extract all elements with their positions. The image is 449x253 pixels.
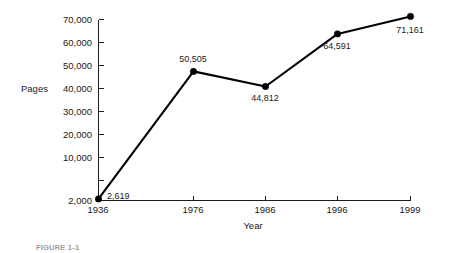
x-tick-label-1936: 1936 [87, 204, 108, 215]
data-point-1999 [407, 13, 413, 19]
x-tick-label-1999: 1999 [399, 204, 420, 215]
series-line-pages [99, 16, 411, 199]
y-tick-label-70000: 70,000 [63, 14, 92, 25]
data-label-1996: 64,591 [323, 41, 351, 51]
data-point-1986 [262, 83, 268, 89]
series-markers-pages [95, 13, 413, 202]
x-tick-label-1996: 1996 [326, 204, 347, 215]
chart-axes [99, 20, 411, 201]
line-chart: 70,000 60,000 50,000 40,000 30,000 20,00… [0, 0, 449, 253]
data-label-1936: 2,619 [107, 191, 130, 201]
x-tick-label-1986: 1986 [254, 204, 275, 215]
data-label-1999: 71,161 [396, 25, 424, 35]
data-label-1976: 50,505 [179, 54, 207, 64]
data-point-1996 [334, 31, 340, 37]
y-tick-label-40000: 40,000 [63, 83, 92, 94]
data-point-1976 [190, 68, 196, 74]
y-tick-label-10000: 10,000 [63, 152, 92, 163]
y-tick-label-20000: 20,000 [63, 129, 92, 140]
data-label-1986: 44,812 [251, 93, 279, 103]
figure-container: 70,000 60,000 50,000 40,000 30,000 20,00… [0, 0, 449, 253]
y-tick-label-50000: 50,000 [63, 60, 92, 71]
figure-caption: FIGURE 1-1 [36, 243, 79, 252]
y-axis-title: Pages [21, 83, 48, 94]
data-point-1936 [95, 196, 101, 202]
x-axis-ticks [99, 196, 411, 201]
x-tick-label-1976: 1976 [182, 204, 203, 215]
y-tick-label-60000: 60,000 [63, 37, 92, 48]
y-axis-ticks [99, 20, 104, 181]
y-tick-label-30000: 30,000 [63, 106, 92, 117]
x-axis-title: Year [243, 220, 262, 231]
